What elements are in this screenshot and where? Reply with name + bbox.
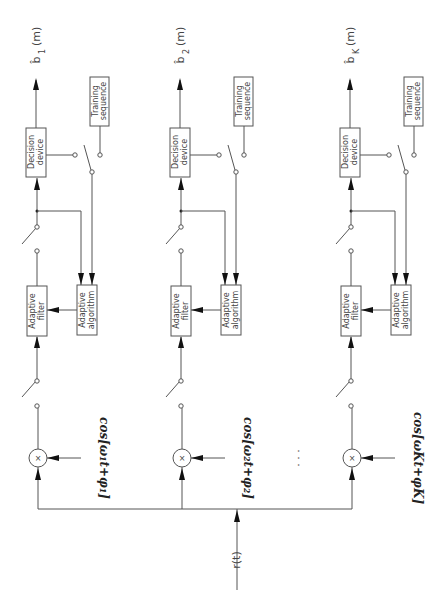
multiplier-symbol: × bbox=[35, 454, 42, 463]
svg-text:b̂: b̂ bbox=[344, 56, 357, 64]
adaptive-filter-label: Adaptive bbox=[342, 293, 351, 328]
decision-device-label: Decision bbox=[171, 135, 180, 169]
decision-device-label: Decision bbox=[27, 135, 36, 169]
adaptive-filter-label: filter bbox=[351, 301, 360, 320]
branch-k: × cos[ωKt+φK] Adaptive filter Adaptive a… bbox=[336, 27, 425, 509]
adaptive-filter-label: filter bbox=[37, 301, 46, 320]
sampler-switch-1 bbox=[22, 381, 36, 397]
decision-device-label: device bbox=[350, 139, 359, 165]
oscillator-label-k: cos[ωKt+φK] bbox=[411, 412, 425, 504]
sampler-switch-2 bbox=[166, 381, 180, 397]
input-label-rt: r(t) bbox=[230, 551, 243, 568]
output-label-1: b̂ 1 (m) bbox=[30, 27, 47, 65]
training-sequence-label: sequence bbox=[243, 82, 252, 121]
svg-text:K: K bbox=[352, 48, 361, 54]
adaptive-filter-label: filter bbox=[181, 301, 190, 320]
adaptive-algorithm-label: algorithm bbox=[401, 290, 410, 329]
svg-text:2: 2 bbox=[182, 49, 191, 54]
adaptive-algorithm-label: algorithm bbox=[87, 290, 96, 329]
svg-text:(m): (m) bbox=[30, 27, 43, 46]
multiplier-symbol: × bbox=[349, 454, 356, 463]
training-switch-1 bbox=[84, 145, 91, 170]
adaptive-filter-label: Adaptive bbox=[172, 293, 181, 328]
decision-device-label: Decision bbox=[341, 135, 350, 169]
svg-text:b̂: b̂ bbox=[30, 56, 43, 64]
multi-branch-adaptive-equalizer-diagram: r(t) · · · × cos[ω₁t+φ₁] Adaptive filter… bbox=[0, 0, 444, 592]
adaptive-filter-label: Adaptive bbox=[28, 293, 37, 328]
adaptive-algorithm-label: Adaptive bbox=[392, 292, 401, 327]
training-sequence-label: sequence bbox=[99, 82, 108, 121]
adaptive-algorithm-label: algorithm bbox=[231, 290, 240, 329]
input-bus: r(t) bbox=[38, 509, 352, 590]
svg-text:b̂: b̂ bbox=[174, 56, 187, 64]
training-switch-k bbox=[398, 145, 405, 170]
branch-1: × cos[ω₁t+φ₁] Adaptive filter Adaptive a… bbox=[22, 27, 111, 509]
ellipsis: · · · bbox=[292, 449, 305, 466]
branch-2: × cos[ω₂t+φ₂] Adaptive filter Adaptive a… bbox=[166, 27, 255, 509]
svg-text:(m): (m) bbox=[344, 27, 357, 46]
adaptive-algorithm-label: Adaptive bbox=[78, 292, 87, 327]
output-label-2: b̂ 2 (m) bbox=[174, 27, 191, 65]
adaptive-algorithm-label: Adaptive bbox=[222, 292, 231, 327]
training-switch-2 bbox=[228, 145, 235, 170]
svg-text:1: 1 bbox=[38, 49, 47, 54]
training-sequence-label: sequence bbox=[413, 82, 422, 121]
oscillator-label-1: cos[ω₁t+φ₁] bbox=[97, 417, 111, 499]
output-label-k: b̂ K (m) bbox=[344, 27, 361, 65]
svg-text:(m): (m) bbox=[174, 27, 187, 46]
multiplier-symbol: × bbox=[179, 454, 186, 463]
decision-device-label: device bbox=[180, 139, 189, 165]
decision-device-label: device bbox=[36, 139, 45, 165]
oscillator-label-2: cos[ω₂t+φ₂] bbox=[241, 417, 255, 499]
sampler-switch-k bbox=[336, 381, 350, 397]
